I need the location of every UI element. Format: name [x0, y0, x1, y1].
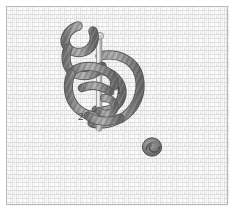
step-label-2: 2 [78, 111, 84, 122]
stitch-diagram-figure: 1 2 [0, 0, 235, 212]
step-label-1: 1 [116, 85, 122, 96]
stitch-illustration [0, 0, 235, 212]
completed-knot [142, 138, 161, 156]
